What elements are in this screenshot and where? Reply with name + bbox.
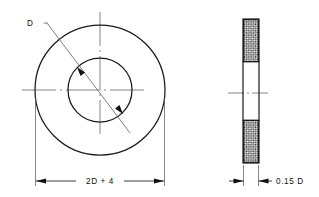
thickness-label: 0.15 D <box>276 177 304 186</box>
side-section-view: 0.15 D <box>228 19 304 186</box>
bore-diameter-leader <box>44 23 130 133</box>
washer-drawing-svg: D 2D + 4 <box>0 0 319 197</box>
thickness-arrowhead-left <box>234 179 244 184</box>
front-view: D 2D + 4 <box>22 12 178 186</box>
width-arrowhead-left <box>36 179 46 184</box>
bore-arrowhead-lower <box>115 105 123 114</box>
thickness-dimension: 0.15 D <box>229 177 304 186</box>
overall-width-dimension: 2D + 4 <box>36 177 164 186</box>
technical-drawing-canvas: D 2D + 4 <box>0 0 319 197</box>
section-hatch-upper <box>244 20 259 62</box>
bore-diameter-label: D <box>27 19 33 28</box>
overall-width-label: 2D + 4 <box>86 177 114 186</box>
thickness-arrowhead-right <box>259 179 269 184</box>
section-hatch-lower <box>244 120 259 162</box>
leader-diagonal <box>47 23 130 133</box>
width-arrowhead-right <box>154 179 164 184</box>
